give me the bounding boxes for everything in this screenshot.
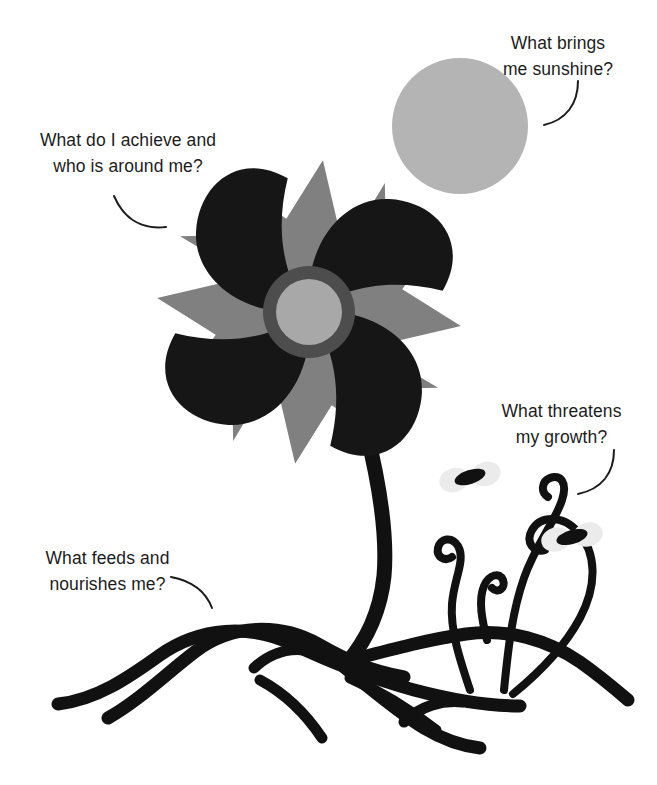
caption-feeds: What feeds and nourishes me? bbox=[10, 545, 205, 597]
caption-sunshine: What brings me sunshine? bbox=[468, 30, 648, 82]
diagram-canvas: What brings me sunshine? What do I achie… bbox=[0, 0, 657, 785]
root-branch bbox=[254, 650, 304, 668]
flower-stem bbox=[348, 430, 385, 662]
insect bbox=[436, 454, 504, 500]
pointer-arc-threatens bbox=[578, 450, 614, 494]
root-branch bbox=[260, 680, 322, 738]
pointer-arc-achieve bbox=[114, 196, 166, 227]
flower-center-fill bbox=[276, 279, 342, 345]
pointer-arc-sunshine bbox=[544, 81, 578, 125]
root-system bbox=[58, 629, 628, 748]
weed-stem bbox=[438, 539, 470, 690]
flower-illustration bbox=[0, 0, 657, 785]
insect-group bbox=[436, 454, 605, 559]
caption-threatens: What threatens my growth? bbox=[474, 398, 649, 450]
caption-achieve: What do I achieve and who is around me? bbox=[18, 127, 238, 179]
root-branch bbox=[404, 702, 462, 722]
